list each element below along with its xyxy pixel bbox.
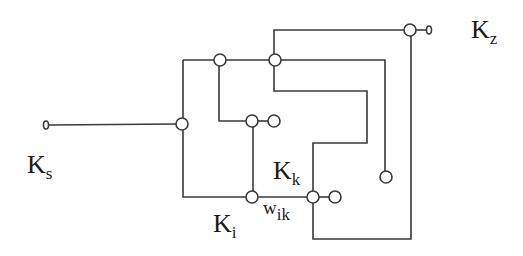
wires xyxy=(49,30,426,239)
wire-ks-to-left-junction xyxy=(49,124,176,125)
mid-junction-node xyxy=(246,115,258,127)
nodes xyxy=(44,24,432,203)
label-ki: Ki xyxy=(213,209,237,242)
label-kk: Kk xyxy=(273,156,301,189)
bottom-open-node xyxy=(329,191,341,203)
kz-terminal-node xyxy=(427,26,432,34)
kz-junction-node xyxy=(404,24,416,36)
wire-top1-to-mid xyxy=(219,66,246,121)
kk-node xyxy=(307,191,319,203)
ki-node xyxy=(246,191,258,203)
label-wik: wik xyxy=(263,197,290,224)
network-diagram: Ks Kz Ki Kk wik xyxy=(0,0,523,256)
wire-kk-loop-to-kz xyxy=(313,36,411,239)
labels: Ks Kz Ki Kk wik xyxy=(27,15,498,242)
wire-top2-to-open-right xyxy=(281,60,385,171)
label-kz: Kz xyxy=(471,15,498,48)
top-junction-node-1 xyxy=(214,54,226,66)
mid-open-node xyxy=(268,115,280,127)
top-junction-node-2 xyxy=(269,54,281,66)
left-junction-node xyxy=(176,118,188,130)
right-open-node xyxy=(380,171,392,183)
wire-top2-to-kz xyxy=(274,30,404,54)
label-ks: Ks xyxy=(27,150,52,183)
ks-terminal-node xyxy=(44,121,49,129)
wire-left-vertical-bus xyxy=(183,60,246,197)
